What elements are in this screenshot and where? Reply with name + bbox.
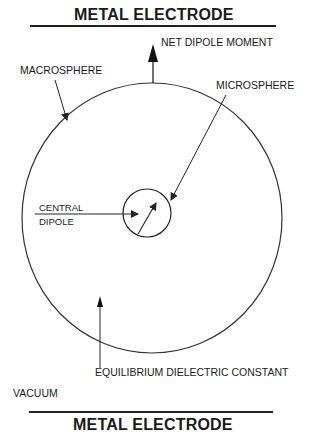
macrosphere-circle [22,83,282,353]
equilibrium-dielectric-arrowhead-icon [97,296,103,307]
net-dipole-arrowhead-icon [148,44,158,62]
microsphere-pointer-arrow [171,95,226,200]
microsphere-circle [123,189,171,237]
diagram-graphics [0,0,326,438]
central-dipole-arrow [138,203,156,234]
macrosphere-pointer-arrow [55,80,67,120]
